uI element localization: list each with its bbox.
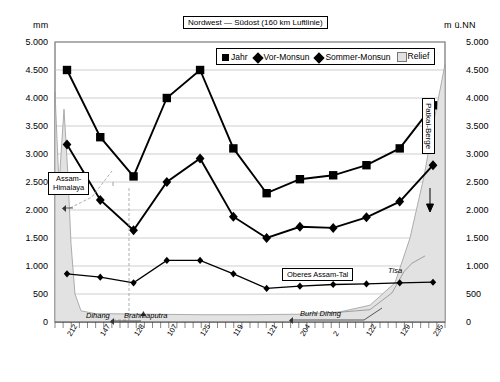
square-marker-icon — [222, 54, 229, 61]
area-swatch-icon — [397, 52, 407, 62]
legend-item-relief: Relief — [397, 51, 430, 62]
annotation-brahmaputra: Brahmaputra — [124, 311, 167, 320]
chart-legend: JahrVor-MonsunSommer-MonsunRelief — [216, 48, 435, 65]
chart-figure: mm m ü.NN Nordwest — Südost (160 km Luft… — [0, 0, 500, 382]
annotation-oberes-assam-tal: Oberes Assam-Tal — [282, 268, 353, 281]
legend-label-relief: Relief — [408, 51, 430, 61]
diamond-marker-icon — [252, 52, 263, 63]
legend-label-jahr: Jahr — [231, 52, 248, 62]
legend-label-sommer-monsun: Sommer-Monsun — [325, 52, 390, 62]
annotation-patkai-berge: Patkai-Berge — [422, 98, 435, 154]
annotation-tisa: Tisa — [388, 266, 402, 275]
annotation-assam-himalaya-line2: Himalaya — [53, 183, 84, 192]
annotation-burhi-dihing: Burhi Dihing — [300, 309, 341, 318]
legend-item-jahr: Jahr — [222, 52, 248, 62]
legend-item-vor-monsun: Vor-Monsun — [254, 52, 310, 62]
annotation-dihang: Dihang — [86, 311, 110, 320]
legend-item-sommer-monsun: Sommer-Monsun — [315, 52, 390, 62]
annotation-assam-himalaya: Assam- Himalaya — [48, 172, 89, 195]
annotation-assam-himalaya-line1: Assam- — [53, 174, 84, 183]
diamond-marker-icon — [314, 52, 325, 63]
legend-label-vor-monsun: Vor-Monsun — [264, 52, 310, 62]
